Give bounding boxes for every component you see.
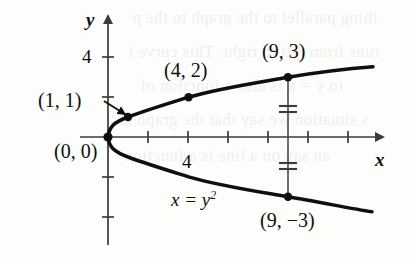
point-label-0-0: (0, 0) [54,141,97,161]
data-point-0-0 [103,132,112,141]
data-point-1-1 [124,113,132,121]
x-axis [80,131,383,143]
coordinate-plane [0,0,416,258]
curve-lower-branch [108,137,372,212]
equation-label: x = y2 [171,190,216,209]
point-label-4-2: (4, 2) [164,60,207,80]
data-point-9-neg3 [284,193,292,201]
curve-upper-branch [108,67,373,137]
y-axis-label: y [86,10,94,29]
equation-text: x = y [171,189,210,210]
point-label-1-1: (1, 1) [38,90,81,110]
graph-figure: thing parallel to the graph to the p run… [0,0,416,258]
equation-exponent: 2 [210,189,216,202]
data-point-9-3 [284,73,292,81]
point-label-9-3: (9, 3) [262,41,305,61]
y-axis-tick-label-4: 4 [82,47,92,66]
x-axis-label: x [375,150,385,169]
x-axis-tick-label-4: 4 [182,152,192,171]
data-point-4-2 [184,93,192,101]
point-label-9-neg3: (9, −3) [260,210,315,230]
